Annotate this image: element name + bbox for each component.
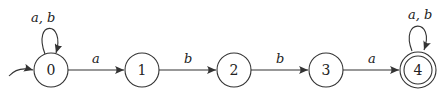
- edge-label-0-1: a: [92, 51, 100, 66]
- state-label: 0: [47, 62, 56, 78]
- state-0: 0: [34, 53, 68, 87]
- state-2: 2: [217, 53, 251, 87]
- state-label: 2: [230, 62, 239, 78]
- state-3: 3: [309, 53, 343, 87]
- edge-label-4-4: a, b: [408, 7, 432, 22]
- edge-label-3-4: a: [368, 51, 376, 66]
- state-label: 3: [322, 62, 331, 78]
- state-label: 1: [138, 62, 147, 78]
- edge-label-0-0: a, b: [31, 10, 55, 25]
- edge-label-2-3: b: [276, 51, 284, 66]
- initial-state-arrow: [9, 69, 33, 76]
- self-loop-edge-4: [409, 26, 426, 51]
- automaton-diagram: a, b a b b a a, b 0 1 2 3 4: [0, 0, 445, 93]
- state-1: 1: [125, 53, 159, 87]
- edge-label-1-2: b: [184, 51, 192, 66]
- self-loop-edge-0: [42, 28, 58, 54]
- state-label: 4: [414, 62, 423, 78]
- state-4-accepting: 4: [400, 52, 436, 88]
